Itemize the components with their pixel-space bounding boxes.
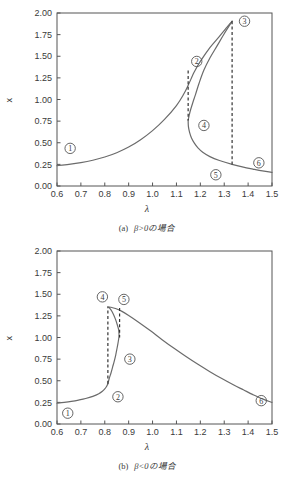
caption-a-text: β>0の場合: [134, 223, 175, 233]
chart-b: 0.60.70.80.91.01.11.21.31.41.50.000.250.…: [0, 238, 294, 438]
y-tick-label: 0.50: [34, 376, 52, 386]
annotation-marker-1: 1: [63, 408, 73, 418]
y-tick-label: 1.00: [34, 333, 52, 343]
caption-a-tag: (a): [119, 223, 128, 233]
y-tick-label: 0.25: [34, 160, 52, 170]
annotation-label: 4: [202, 121, 206, 130]
annotation-label: 6: [259, 397, 263, 406]
annotation-marker-4: 4: [199, 120, 209, 130]
x-tick-label: 1.0: [146, 427, 159, 437]
y-tick-label: 0.75: [34, 116, 52, 126]
x-tick-label: 1.3: [218, 189, 231, 199]
annotation-label: 5: [122, 295, 126, 304]
annotation-label: 3: [128, 355, 132, 364]
annotation-label: 1: [66, 409, 70, 418]
x-tick-label: 0.9: [122, 427, 135, 437]
annotation-marker-6: 6: [254, 158, 264, 168]
x-tick-label: 1.2: [194, 189, 207, 199]
caption-b-tag: (b): [118, 461, 128, 471]
x-tick-label: 0.7: [75, 189, 88, 199]
annotation-marker-3: 3: [239, 16, 249, 26]
y-tick-label: 0.25: [34, 398, 52, 408]
x-tick-label: 1.1: [170, 189, 183, 199]
y-tick-label: 1.00: [34, 95, 52, 105]
x-tick-label: 0.9: [122, 189, 135, 199]
annotation-label: 2: [116, 393, 120, 402]
annotation-label: 3: [243, 17, 247, 26]
y-tick-label: 0.00: [34, 419, 52, 429]
x-tick-label: 1.5: [266, 189, 279, 199]
curve-lower-stable-branch-rising: [57, 384, 108, 403]
x-tick-label: 1.1: [170, 427, 183, 437]
x-tick-label: 0.6: [51, 189, 64, 199]
curve-lower-stable-branch-rising: [57, 21, 232, 165]
y-tick-label: 1.75: [34, 30, 52, 40]
annotation-label: 6: [257, 159, 261, 168]
y-tick-label: 0.00: [34, 181, 52, 191]
x-tick-label: 0.7: [75, 427, 88, 437]
x-tick-label: 1.3: [218, 427, 231, 437]
caption-b: (b)β<0の場合: [0, 459, 294, 471]
annotation-marker-6: 6: [256, 395, 266, 405]
plot-frame: [57, 13, 272, 186]
y-tick-label: 1.50: [34, 51, 52, 61]
annotation-marker-1: 1: [65, 143, 75, 153]
curve-unstable-middle-branch: [108, 336, 119, 384]
annotation-label: 5: [214, 171, 218, 180]
y-tick-label: 2.00: [34, 8, 52, 18]
x-tick-label: 1.0: [146, 189, 159, 199]
x-tick-label: 1.4: [242, 189, 255, 199]
y-tick-label: 2.00: [34, 246, 52, 256]
x-tick-label: 0.8: [99, 427, 112, 437]
annotation-label: 2: [195, 57, 199, 66]
y-tick-label: 1.25: [34, 311, 52, 321]
y-axis-label-a: x: [4, 85, 14, 115]
x-tick-label: 1.2: [194, 427, 207, 437]
plot-panel-b: 0.60.70.80.91.01.11.21.31.41.50.000.250.…: [0, 238, 294, 438]
plot-panel-a: 0.60.70.80.91.01.11.21.31.41.50.000.250.…: [0, 0, 294, 200]
y-tick-label: 0.75: [34, 354, 52, 364]
y-tick-label: 0.50: [34, 138, 52, 148]
y-tick-label: 1.75: [34, 268, 52, 278]
annotation-label: 1: [68, 144, 72, 153]
caption-a: (a)β>0の場合: [0, 221, 294, 233]
annotation-label: 4: [100, 293, 104, 302]
figure-a: 0.60.70.80.91.01.11.21.31.41.50.000.250.…: [0, 0, 294, 238]
x-axis-label-a: λ: [0, 203, 294, 214]
annotation-marker-4: 4: [97, 292, 107, 302]
x-axis-label-b: λ: [0, 441, 294, 452]
x-tick-label: 1.4: [242, 427, 255, 437]
annotation-marker-3: 3: [125, 354, 135, 364]
figure-b: 0.60.70.80.91.01.11.21.31.41.50.000.250.…: [0, 238, 294, 477]
y-tick-label: 1.25: [34, 73, 52, 83]
annotation-marker-5: 5: [211, 170, 221, 180]
x-tick-label: 0.8: [99, 189, 112, 199]
annotation-marker-5: 5: [119, 294, 129, 304]
x-tick-label: 1.5: [266, 427, 279, 437]
annotation-marker-2: 2: [113, 392, 123, 402]
chart-a: 0.60.70.80.91.01.11.21.31.41.50.000.250.…: [0, 0, 294, 200]
y-axis-label-b: x: [4, 323, 14, 353]
y-tick-label: 1.50: [34, 289, 52, 299]
x-tick-label: 0.6: [51, 427, 64, 437]
caption-b-text: β<0の場合: [134, 461, 175, 471]
